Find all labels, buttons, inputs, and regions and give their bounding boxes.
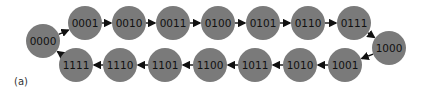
state-label: 1100	[197, 59, 224, 71]
state-node-0101: 0101	[246, 6, 280, 40]
state-label: 0101	[250, 17, 277, 29]
nodes: 0000000100100011010001010110011110001001…	[26, 6, 406, 82]
state-label: 1111	[63, 59, 90, 71]
state-node-1000: 1000	[372, 31, 406, 65]
state-node-0001: 0001	[68, 6, 102, 40]
state-label: 0000	[30, 35, 57, 47]
state-label: 0001	[72, 17, 99, 29]
state-node-0000: 0000	[26, 24, 60, 58]
state-node-0110: 0110	[291, 6, 325, 40]
state-label: 0011	[160, 17, 187, 29]
state-label: 1011	[242, 59, 269, 71]
figure-caption: (a)	[14, 76, 28, 87]
state-node-0111: 0111	[337, 6, 371, 40]
state-node-1011: 1011	[238, 48, 272, 82]
edge-arrow	[368, 33, 375, 38]
state-label: 1000	[376, 42, 403, 54]
state-node-0100: 0100	[201, 6, 235, 40]
state-label: 1110	[107, 59, 134, 71]
state-node-1111: 1111	[59, 48, 93, 82]
state-node-1101: 1101	[148, 48, 182, 82]
state-label: 1101	[152, 59, 179, 71]
edge-arrow	[362, 54, 373, 58]
state-label: 0010	[116, 17, 143, 29]
state-cycle-diagram: 0000000100100011010001010110011110001001…	[0, 0, 425, 94]
state-node-1010: 1010	[283, 48, 317, 82]
state-label: 1010	[287, 59, 314, 71]
state-label: 0111	[341, 17, 368, 29]
state-node-1100: 1100	[193, 48, 227, 82]
state-label: 0100	[205, 17, 232, 29]
state-label: 0110	[295, 17, 322, 29]
state-label: 1001	[332, 59, 359, 71]
state-node-0010: 0010	[112, 6, 146, 40]
state-node-1110: 1110	[103, 48, 137, 82]
state-node-1001: 1001	[328, 48, 362, 82]
edge-arrow	[59, 30, 69, 34]
state-node-0011: 0011	[156, 6, 190, 40]
edge-arrow	[58, 52, 63, 55]
